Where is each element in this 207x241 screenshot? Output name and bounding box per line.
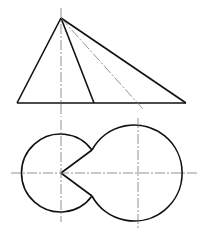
notch-lower <box>61 173 92 196</box>
right-generator <box>61 18 186 103</box>
dashdot-generator <box>61 18 143 109</box>
left-generator <box>17 18 61 103</box>
inner-generator <box>61 18 94 103</box>
notch-upper <box>61 150 92 173</box>
front-view <box>17 18 186 103</box>
technical-drawing <box>0 0 207 241</box>
